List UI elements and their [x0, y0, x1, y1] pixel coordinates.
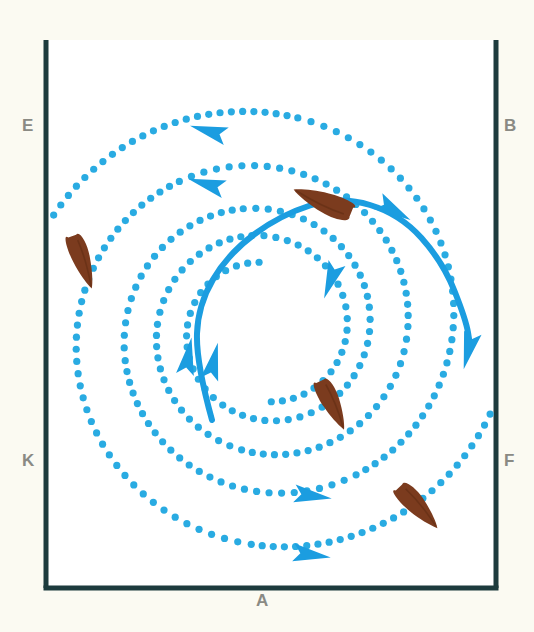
corner-label-top-left: E: [22, 117, 33, 134]
corner-label-top-right: B: [504, 117, 516, 134]
corner-label-bottom-left: K: [22, 452, 34, 469]
diagram-stage: E B K F A: [0, 0, 534, 632]
panel-plot-area: [48, 40, 495, 587]
axis-label-bottom-center: A: [256, 592, 268, 609]
corner-label-bottom-right: F: [504, 452, 514, 469]
spiral-flow-figure: [0, 0, 534, 632]
